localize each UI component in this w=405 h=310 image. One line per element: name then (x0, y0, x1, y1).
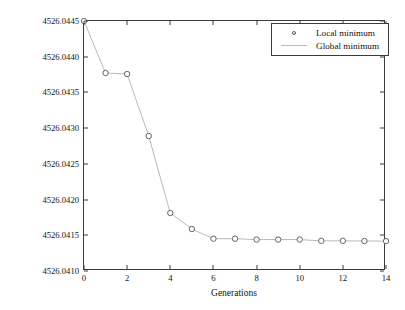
x-tick-mark (256, 265, 257, 269)
legend-marker-circle-icon (277, 31, 311, 35)
data-point-marker (168, 210, 173, 215)
y-tick-mark (84, 163, 88, 164)
legend-marker-line-icon (277, 45, 311, 46)
y-tick-label: 4526.0420 (42, 195, 84, 205)
y-tick-mark (84, 56, 88, 57)
x-tick-label: 8 (254, 269, 258, 283)
y-tick-mark (84, 235, 88, 236)
legend-label-local-minimum: Local minimum (311, 27, 375, 40)
y-tick-mark-right (380, 128, 384, 129)
data-point-marker (146, 133, 151, 138)
x-tick-mark (299, 265, 300, 269)
y-tick-mark-right (380, 92, 384, 93)
data-point-marker (297, 237, 302, 242)
y-tick-mark (84, 21, 88, 22)
x-tick-mark-top (213, 21, 214, 25)
x-tick-mark (213, 265, 214, 269)
data-point-marker (362, 238, 367, 243)
data-point-marker (103, 70, 108, 75)
x-tick-mark (170, 265, 171, 269)
x-tick-mark (386, 265, 387, 269)
y-tick-mark-right (380, 235, 384, 236)
y-tick-label: 4526.0430 (42, 123, 84, 133)
x-tick-mark-top (256, 21, 257, 25)
y-tick-mark (84, 128, 88, 129)
x-tick-mark (84, 265, 85, 269)
x-tick-label: 0 (82, 269, 86, 283)
y-tick-label: 4526.0410 (42, 266, 84, 276)
series-layer (84, 21, 386, 271)
x-tick-label: 12 (339, 269, 348, 283)
data-point-marker (124, 71, 129, 76)
data-point-marker (275, 237, 280, 242)
y-tick-mark (84, 92, 88, 93)
data-point-marker (254, 237, 259, 242)
y-tick-label: 4526.0435 (42, 87, 84, 97)
data-point-marker (232, 236, 237, 241)
y-tick-label: 4526.0425 (42, 159, 84, 169)
y-tick-label: 4526.0415 (42, 230, 84, 240)
data-point-marker (211, 236, 216, 241)
legend-item-local-minimum: Local minimum (277, 27, 379, 40)
chart-legend: Local minimum Global minimum (271, 23, 389, 56)
legend-label-global-minimum: Global minimum (311, 40, 379, 53)
x-tick-label: 14 (382, 269, 391, 283)
y-tick-mark-right (380, 56, 384, 57)
y-tick-mark-right (380, 199, 384, 200)
data-point-marker (189, 226, 194, 231)
y-tick-label: 4526.0445 (42, 16, 84, 26)
chart-figure: Augmented objective function (crore INR/… (0, 0, 405, 310)
y-tick-mark-right (380, 163, 384, 164)
x-tick-label: 2 (125, 269, 129, 283)
x-tick-mark-top (170, 21, 171, 25)
y-tick-mark (84, 199, 88, 200)
x-axis-title: Generations (83, 288, 385, 298)
legend-item-global-minimum: Global minimum (277, 40, 379, 53)
x-tick-label: 6 (211, 269, 215, 283)
y-tick-mark-right (380, 21, 384, 22)
x-tick-mark (127, 265, 128, 269)
y-tick-label: 4526.0440 (42, 52, 84, 62)
x-tick-mark-top (127, 21, 128, 25)
data-point-marker (340, 238, 345, 243)
x-tick-label: 10 (295, 269, 304, 283)
plot-area: 4526.04104526.04154526.04204526.04254526… (83, 20, 385, 270)
x-tick-mark-top (84, 21, 85, 25)
data-point-marker (383, 238, 388, 243)
x-tick-mark (342, 265, 343, 269)
data-point-marker (319, 238, 324, 243)
x-tick-label: 4 (168, 269, 172, 283)
